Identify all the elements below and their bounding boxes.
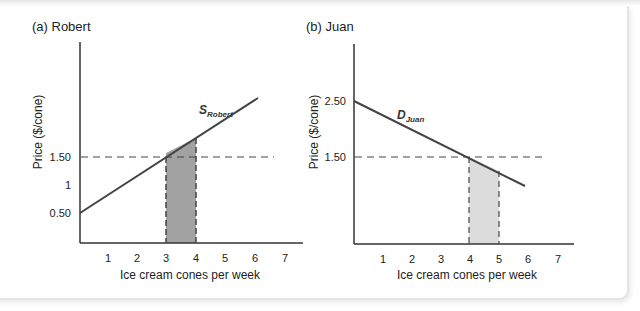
juan-x-axis-title: Ice cream cones per week <box>397 268 538 282</box>
panel-robert: (a) Robert SRobert 1.50 1 0.50 1 2 3 4 5… <box>31 19 303 282</box>
robert-xtick: 5 <box>222 252 228 264</box>
juan-demand-label: DJuan <box>397 108 424 124</box>
panel-title-juan: (b) Juan <box>306 19 354 34</box>
robert-ytick-050: 0.50 <box>50 207 71 219</box>
juan-xtick: 7 <box>555 253 561 265</box>
robert-xtick: 3 <box>163 252 169 264</box>
robert-xtick: 4 <box>193 252 199 264</box>
robert-xtick: 1 <box>105 252 111 264</box>
juan-xtick: 6 <box>525 253 531 265</box>
juan-y-axis-title: Price ($/cone) <box>307 95 321 170</box>
robert-ytick-1: 1 <box>65 179 71 191</box>
panel-juan: (b) Juan DJuan 2.50 1.50 1 2 3 4 5 6 7 I… <box>306 19 574 282</box>
robert-xtick: 6 <box>252 252 258 264</box>
robert-xtick: 2 <box>134 252 140 264</box>
robert-supply-label: SRobert <box>199 103 233 119</box>
juan-xtick: 4 <box>467 253 473 265</box>
juan-xtick: 5 <box>496 253 502 265</box>
juan-xtick: 2 <box>409 253 415 265</box>
robert-x-axis-title: Ice cream cones per week <box>120 268 261 282</box>
robert-y-axis-title: Price ($/cone) <box>31 95 45 170</box>
panel-title-robert: (a) Robert <box>32 19 91 34</box>
juan-xtick: 3 <box>438 253 444 265</box>
figure-svg: (a) Robert SRobert 1.50 1 0.50 1 2 3 4 5… <box>0 0 640 311</box>
juan-xtick: 1 <box>380 253 386 265</box>
robert-xtick: 7 <box>282 252 288 264</box>
juan-ytick-250: 2.50 <box>325 95 346 107</box>
robert-ytick-150: 1.50 <box>50 151 71 163</box>
juan-ytick-150: 1.50 <box>325 151 346 163</box>
juan-demand-curve <box>354 101 525 186</box>
